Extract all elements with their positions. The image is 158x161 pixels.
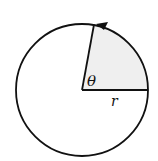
circle-sector-diagram: θ r <box>0 0 158 161</box>
radius-label: r <box>111 93 119 109</box>
angle-label: θ <box>87 72 96 90</box>
